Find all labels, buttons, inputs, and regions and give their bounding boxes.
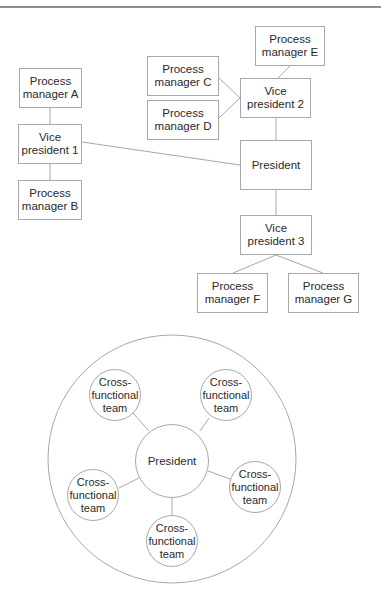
edge-center-team-2 [200,418,209,431]
node-process-manager-d: Process manager D [147,100,219,140]
edge-vp1-president [82,142,240,165]
circle-cross-functional-team-bottom: Cross- functional team [146,515,198,567]
edge-pm-e-vp2 [278,66,290,78]
node-vice-president-2: Vice president 2 [240,78,311,118]
edge-center-team-1 [133,413,149,431]
circle-cross-functional-team-top-left: Cross- functional team [89,369,141,421]
edge-vp3-pm-g [276,255,323,273]
circle-president: President [135,424,209,498]
node-process-manager-c: Process manager C [147,56,219,96]
node-process-manager-g: Process manager G [288,273,359,313]
node-process-manager-b: Process manager B [18,180,82,220]
node-vice-president-3: Vice president 3 [240,215,312,255]
node-process-manager-f: Process manager F [197,273,268,313]
node-president: President [240,140,312,190]
circle-cross-functional-team-top-right: Cross- functional team [200,369,252,421]
node-process-manager-e: Process manager E [255,26,325,66]
circle-cross-functional-team-left: Cross- functional team [67,469,119,521]
edge-pm-d-vp2 [219,98,240,118]
edge-center-team-3 [208,471,230,479]
node-process-manager-a: Process manager A [19,68,82,108]
node-vice-president-1: Vice president 1 [18,124,82,164]
circle-cross-functional-team-right: Cross- functional team [229,461,281,513]
edge-center-team-5 [119,478,139,488]
edge-vp3-pm-f [233,255,276,273]
edge-pm-c-vp2 [219,78,240,98]
